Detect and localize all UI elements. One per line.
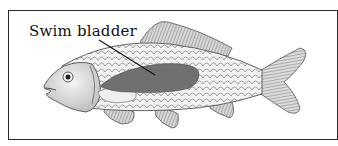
pelvic-fin (155, 110, 178, 129)
tail-fin (258, 48, 306, 113)
swim-bladder-label: Swim bladder (29, 22, 137, 40)
